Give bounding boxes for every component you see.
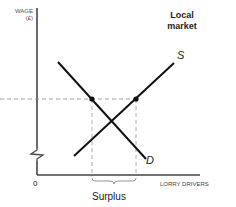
supply-curve (74, 63, 174, 156)
y-axis-label-line1: WAGE (0, 8, 33, 15)
title-line2: market (160, 21, 204, 32)
title-line1: Local (160, 10, 204, 21)
surplus-brace (92, 178, 136, 184)
x-axis-label: LORRY DRIVERS (160, 181, 209, 187)
origin-label: 0 (33, 179, 37, 188)
supply-label: S (177, 49, 184, 61)
diagram-title: Local market (160, 10, 204, 32)
axis-break-icon (31, 148, 43, 161)
surplus-label: Surplus (92, 191, 126, 202)
demand-curve (58, 62, 146, 159)
demand-point (89, 96, 94, 101)
demand-label: D (146, 154, 154, 166)
y-axis-label: WAGE (£) (0, 8, 33, 22)
y-axis-label-line2: (£) (0, 15, 33, 22)
supply-point (133, 96, 138, 101)
